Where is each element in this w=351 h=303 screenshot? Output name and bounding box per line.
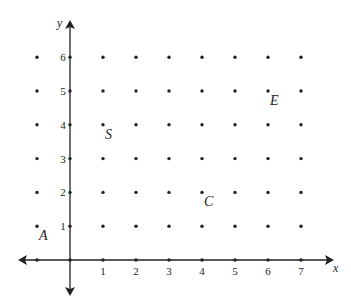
y-axis-label: y bbox=[56, 16, 63, 30]
grid-dot bbox=[200, 123, 203, 126]
grid-dot bbox=[101, 225, 104, 228]
grid-dot bbox=[233, 123, 236, 126]
grid-dot bbox=[167, 157, 170, 160]
x-tick-label: 4 bbox=[199, 265, 205, 277]
grid-dot bbox=[134, 225, 137, 228]
y-tick-label: 3 bbox=[60, 153, 66, 165]
grid-dot bbox=[134, 123, 137, 126]
grid-dot bbox=[233, 56, 236, 59]
grid-dot bbox=[233, 225, 236, 228]
x-tick-label: 2 bbox=[133, 265, 139, 277]
y-tick-label: 6 bbox=[60, 51, 66, 63]
grid-dot bbox=[101, 191, 104, 194]
point-label-c: C bbox=[204, 194, 214, 209]
grid-dot bbox=[35, 56, 38, 59]
coordinate-grid: x y 1234567 123456 ASCE bbox=[0, 0, 351, 303]
grid-dot bbox=[35, 123, 38, 126]
grid-dot bbox=[200, 89, 203, 92]
x-tick-label: 7 bbox=[298, 265, 304, 277]
grid-dot bbox=[167, 225, 170, 228]
grid-dot bbox=[200, 56, 203, 59]
grid-dot bbox=[299, 123, 302, 126]
grid-dot bbox=[299, 225, 302, 228]
x-axis bbox=[18, 255, 334, 265]
grid-dot bbox=[266, 157, 269, 160]
y-tick-label: 5 bbox=[60, 85, 66, 97]
point-labels: ASCE bbox=[38, 93, 279, 243]
grid-dot bbox=[101, 89, 104, 92]
grid-dot bbox=[167, 123, 170, 126]
x-tick-label: 6 bbox=[265, 265, 271, 277]
y-axis bbox=[65, 20, 75, 296]
grid-dot bbox=[134, 89, 137, 92]
grid-dot bbox=[167, 89, 170, 92]
grid-dot bbox=[167, 56, 170, 59]
point-label-a: A bbox=[38, 228, 48, 243]
grid-dots bbox=[35, 56, 302, 262]
grid-dot bbox=[35, 89, 38, 92]
grid-dot bbox=[134, 56, 137, 59]
grid-dot bbox=[266, 225, 269, 228]
x-tick-label: 1 bbox=[100, 265, 106, 277]
grid-dot bbox=[266, 123, 269, 126]
grid-dot bbox=[200, 225, 203, 228]
grid-dot bbox=[35, 191, 38, 194]
grid-dot bbox=[299, 191, 302, 194]
grid-dot bbox=[101, 56, 104, 59]
grid-dot bbox=[299, 56, 302, 59]
grid-dot bbox=[266, 191, 269, 194]
grid-dot bbox=[200, 157, 203, 160]
x-axis-label: x bbox=[332, 261, 339, 275]
x-tick-label: 5 bbox=[232, 265, 238, 277]
y-tick-label: 4 bbox=[60, 119, 66, 131]
grid-dot bbox=[266, 56, 269, 59]
grid-dot bbox=[35, 157, 38, 160]
x-tick-labels: 1234567 bbox=[100, 265, 304, 277]
grid-dot bbox=[233, 157, 236, 160]
x-tick-label: 3 bbox=[166, 265, 172, 277]
grid-dot bbox=[167, 191, 170, 194]
y-tick-label: 1 bbox=[60, 220, 66, 232]
grid-dot bbox=[134, 157, 137, 160]
point-label-s: S bbox=[105, 127, 112, 142]
grid-dot bbox=[101, 157, 104, 160]
point-label-e: E bbox=[269, 93, 279, 108]
grid-dot bbox=[233, 191, 236, 194]
grid-dot bbox=[299, 89, 302, 92]
grid-dot bbox=[134, 191, 137, 194]
y-tick-labels: 123456 bbox=[60, 51, 66, 232]
grid-dot bbox=[299, 157, 302, 160]
y-tick-label: 2 bbox=[60, 186, 66, 198]
grid-dot bbox=[233, 89, 236, 92]
